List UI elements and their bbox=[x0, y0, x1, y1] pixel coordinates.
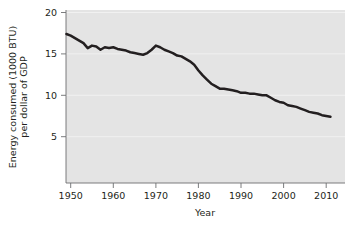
x-tick-label-2010: 2010 bbox=[314, 190, 338, 201]
x-tick-label-2000: 2000 bbox=[272, 190, 296, 201]
line-chart: 20 15 10 5 1950 1960 1970 1980 1990 2000… bbox=[0, 0, 353, 230]
x-tick-label-1970: 1970 bbox=[144, 190, 168, 201]
x-tick-label-1990: 1990 bbox=[229, 190, 253, 201]
y-tick-label-20: 20 bbox=[45, 7, 57, 18]
plot-area-background bbox=[66, 10, 345, 183]
y-axis-ticks bbox=[61, 13, 66, 137]
x-tick-label-1950: 1950 bbox=[59, 190, 83, 201]
y-tick-label-15: 15 bbox=[45, 48, 57, 59]
x-axis-title: Year bbox=[194, 207, 215, 218]
y-tick-label-5: 5 bbox=[51, 131, 57, 142]
y-axis-title-line2: per dollar of GDP bbox=[18, 56, 29, 138]
y-tick-label-10: 10 bbox=[45, 90, 57, 101]
x-tick-label-1980: 1980 bbox=[186, 190, 210, 201]
x-tick-label-1960: 1960 bbox=[101, 190, 125, 201]
x-axis-ticks bbox=[71, 183, 327, 188]
chart-figure: 20 15 10 5 1950 1960 1970 1980 1990 2000… bbox=[0, 0, 353, 230]
y-axis-title-line1: Energy consumed (1000 BTU) bbox=[7, 26, 18, 168]
